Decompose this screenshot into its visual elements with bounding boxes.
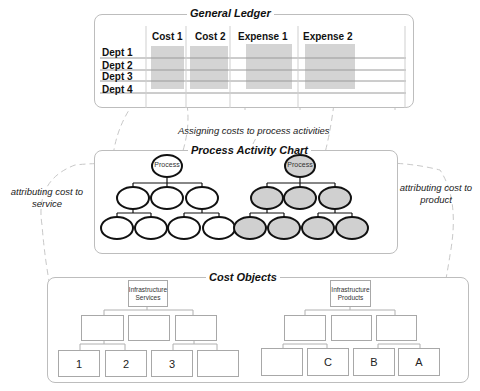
- product-group-box: [331, 315, 372, 341]
- product-group-box: [376, 315, 417, 341]
- services-root-line1: Infrastructure: [129, 286, 167, 294]
- products-root-line2: Products: [338, 294, 364, 302]
- service-leaf-box: 3: [151, 350, 193, 377]
- product-leaf-box: C: [307, 348, 349, 376]
- infrastructure-products-box: Infrastructure Products: [330, 280, 371, 307]
- service-group-box: [128, 315, 170, 341]
- product-leaf-box: A: [398, 348, 440, 376]
- service-group-box: [175, 315, 217, 341]
- infrastructure-services-box: Infrastructure Services: [128, 280, 168, 307]
- service-group-box: [81, 315, 124, 341]
- service-leaf-box: 1: [58, 350, 100, 377]
- product-group-box: [284, 315, 326, 341]
- service-leaf-box: 2: [105, 350, 147, 377]
- product-leaf-box: B: [353, 348, 395, 376]
- product-leaf-box: [261, 348, 303, 376]
- service-leaf-box: [197, 350, 239, 377]
- products-root-line1: Infrastructure: [331, 286, 369, 294]
- services-root-line2: Services: [136, 294, 161, 302]
